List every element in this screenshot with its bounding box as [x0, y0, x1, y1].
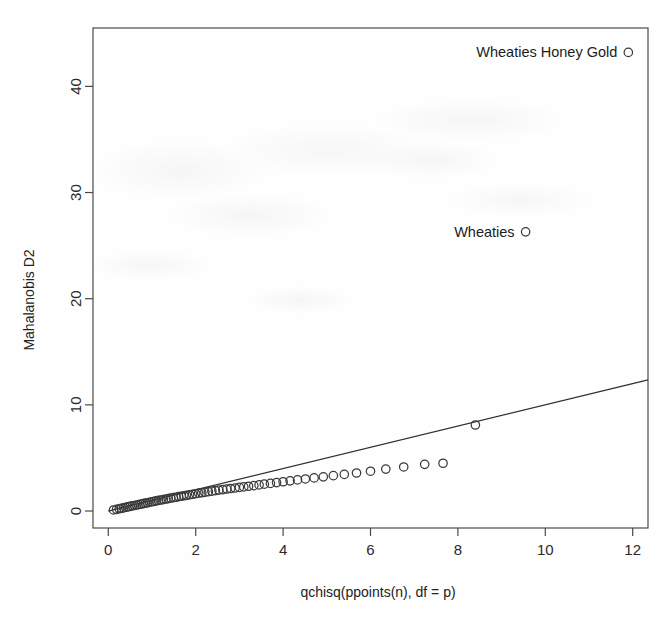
x-tick-label: 2	[192, 541, 200, 558]
data-point	[301, 475, 309, 483]
plot-frame	[93, 28, 648, 528]
qq-plot-canvas: 024681012 010203040 Wheaties Honey GoldW…	[0, 0, 667, 625]
x-tick-label: 12	[624, 541, 641, 558]
y-tick-label: 20	[68, 290, 85, 307]
x-tick-label: 0	[104, 541, 112, 558]
data-point	[521, 228, 529, 236]
data-points	[109, 48, 632, 514]
outlier-label-wheaties: Wheaties	[454, 224, 514, 240]
y-axis-ticks: 010203040	[68, 78, 94, 515]
data-point	[340, 470, 348, 478]
x-tick-label: 6	[366, 541, 374, 558]
data-point	[310, 474, 318, 482]
x-axis-ticks: 024681012	[104, 528, 641, 558]
data-point	[420, 460, 428, 468]
chart-figure: 024681012 010203040 Wheaties Honey GoldW…	[0, 0, 667, 625]
data-point	[366, 467, 374, 475]
data-point	[400, 463, 408, 471]
x-tick-label: 8	[454, 541, 462, 558]
x-tick-label: 10	[537, 541, 554, 558]
y-tick-label: 40	[68, 78, 85, 95]
x-tick-label: 4	[279, 541, 287, 558]
data-point	[319, 473, 327, 481]
outlier-label-wheaties-honey-gold: Wheaties Honey Gold	[476, 44, 617, 60]
data-point	[352, 469, 360, 477]
y-tick-label: 30	[68, 184, 85, 201]
outlier-annotations: Wheaties Honey GoldWheaties	[454, 44, 617, 239]
y-tick-label: 10	[68, 397, 85, 414]
data-point	[439, 459, 447, 467]
data-point	[329, 471, 337, 479]
data-point	[624, 48, 632, 56]
data-point	[382, 465, 390, 473]
y-tick-label: 0	[68, 507, 85, 515]
